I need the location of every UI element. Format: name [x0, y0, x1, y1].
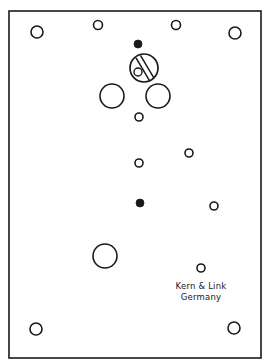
hole-template-diagram [0, 0, 266, 362]
filled-dot-upper-dot-icon [134, 40, 142, 48]
adjuster-slot-line-1 [140, 55, 153, 78]
hole-center-small-2-icon [135, 159, 143, 167]
hole-center-small-1-icon [135, 113, 143, 121]
hole-large-right-icon [146, 84, 170, 108]
adjuster-screw-icon [130, 54, 158, 82]
hole-corner-top-right-icon [229, 27, 241, 39]
manufacturer-label: Kern & Link Germany [168, 281, 234, 303]
hole-large-lower-icon [93, 244, 117, 268]
hole-corner-bottom-right-icon [228, 322, 240, 334]
hole-top-small-right-icon [172, 21, 181, 30]
hole-right-small-1-icon [185, 149, 193, 157]
hole-large-left-icon [100, 84, 124, 108]
plate-outline [9, 11, 261, 358]
hole-corner-bottom-left-icon [30, 323, 42, 335]
hole-corner-top-left-icon [31, 26, 43, 38]
hole-label-small-icon [197, 264, 205, 272]
adjuster-inner-circle [134, 68, 142, 76]
hole-top-small-left-icon [94, 21, 103, 30]
hole-right-small-2-icon [210, 202, 218, 210]
manufacturer-name: Kern & Link [168, 281, 234, 292]
filled-dot-center-dot-icon [136, 199, 144, 207]
manufacturer-country: Germany [168, 292, 234, 303]
